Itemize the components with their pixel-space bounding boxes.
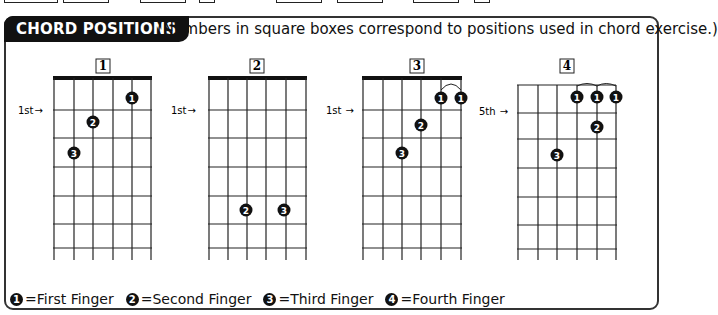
legend-item-second-finger: 2 =Second Finger xyxy=(126,291,252,307)
legend-item-third-finger: 3 =Third Finger xyxy=(263,291,373,307)
finger-dot: 2 xyxy=(240,204,253,217)
diagram-number: 1 xyxy=(99,59,107,73)
diagram-number: 3 xyxy=(413,59,421,73)
finger-dot: 1 xyxy=(126,92,139,105)
finger-1-icon: 1 xyxy=(10,293,23,306)
position-label: 1st→ xyxy=(326,105,354,116)
finger-dot: 1 xyxy=(455,92,468,105)
svg-text:1: 1 xyxy=(594,93,600,103)
svg-text:1: 1 xyxy=(613,93,619,103)
chord-diagram-4: 4 5th→ 1 1 1 2 3 xyxy=(479,59,623,260)
finger-dot: 1 xyxy=(591,91,604,104)
finger-dot: 1 xyxy=(610,91,623,104)
finger-dot: 2 xyxy=(415,119,428,132)
chord-diagram-3: 3 1st→ 1 1 2 3 xyxy=(326,59,468,260)
svg-text:2: 2 xyxy=(418,121,424,131)
legend-item-first-finger: 1 =First Finger xyxy=(10,291,114,307)
svg-text:3: 3 xyxy=(71,149,77,159)
chord-diagram-1: 1 1st→ 1 2 3 xyxy=(18,59,152,260)
svg-text:3: 3 xyxy=(399,149,405,159)
diagram-number: 4 xyxy=(563,59,571,73)
finger-4-icon: 4 xyxy=(385,293,398,306)
svg-text:1: 1 xyxy=(574,93,580,103)
svg-text:1: 1 xyxy=(129,94,135,104)
finger-dot: 2 xyxy=(591,121,604,134)
barre-arc xyxy=(441,84,461,90)
svg-text:3: 3 xyxy=(281,206,287,216)
svg-text:3: 3 xyxy=(554,151,560,161)
svg-text:1: 1 xyxy=(458,94,464,104)
finger-dot: 3 xyxy=(278,204,291,217)
finger-3-icon: 3 xyxy=(263,293,276,306)
finger-dot: 3 xyxy=(551,149,564,162)
finger-dot: 1 xyxy=(571,91,584,104)
finger-dot: 1 xyxy=(435,92,448,105)
svg-text:2: 2 xyxy=(90,118,96,128)
svg-text:2: 2 xyxy=(243,206,249,216)
finger-dot: 3 xyxy=(396,147,409,160)
position-label: 1st→ xyxy=(18,105,43,116)
position-label: 1st→ xyxy=(171,105,196,116)
chord-diagram-2: 2 1st→ 2 3 xyxy=(171,59,307,260)
finger-2-icon: 2 xyxy=(126,293,139,306)
diagram-number: 2 xyxy=(253,59,261,73)
svg-text:2: 2 xyxy=(594,123,600,133)
position-label: 5th→ xyxy=(479,106,508,117)
finger-dot: 3 xyxy=(68,147,81,160)
finger-legend: 1 =First Finger 2 =Second Finger 3 =Thir… xyxy=(10,291,517,307)
svg-text:1: 1 xyxy=(438,94,444,104)
legend-item-fourth-finger: 4 =Fourth Finger xyxy=(385,291,504,307)
finger-dot: 2 xyxy=(87,116,100,129)
